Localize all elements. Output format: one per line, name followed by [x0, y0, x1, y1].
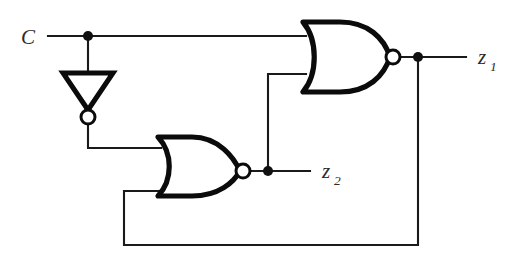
- input-label-c: C: [21, 25, 36, 49]
- circuit-canvas: C z 1 z 2: [0, 0, 517, 257]
- inverter-triangle: [63, 73, 113, 110]
- output-label-z2: z: [321, 159, 330, 183]
- output-label-z1-subscript: 1: [490, 59, 497, 74]
- output-label-z1: z: [477, 45, 486, 69]
- inverter-bubble-icon: [81, 110, 95, 124]
- nor-gate-2-body: [158, 137, 240, 196]
- logic-circuit-diagram: C z 1 z 2: [0, 0, 517, 257]
- z1-branch-dot: [413, 52, 423, 62]
- wire-z2-to-nor1: [268, 74, 306, 171]
- nor-gate-2-bubble-icon: [236, 164, 250, 178]
- output-label-z2-subscript: 2: [334, 173, 341, 188]
- c-branch-dot: [83, 31, 93, 41]
- wire-inverter-to-nor2: [88, 124, 161, 148]
- nor-gate-1-bubble-icon: [386, 50, 400, 64]
- nor-gate-1-body: [303, 22, 390, 92]
- z2-branch-dot: [263, 166, 273, 176]
